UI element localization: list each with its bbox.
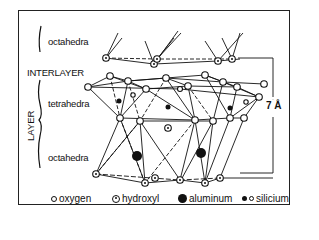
label-spacing-7a: 7 Å [265, 100, 283, 111]
silicium-open-symbol-icon [249, 196, 254, 201]
legend: oxygen hydroxyl aluminum silicium [0, 193, 290, 207]
legend-label: aluminum [189, 193, 232, 204]
label-interlayer: INTERLAYER [27, 67, 84, 78]
label-octahedra-interlayer: octahedra [48, 36, 88, 47]
label-octahedra-layer: octahedra [48, 152, 88, 163]
legend-item-oxygen: oxygen [51, 193, 91, 204]
label-layer: LAYER [25, 111, 36, 141]
hydroxyl-symbol-icon [112, 195, 120, 203]
label-tetrahedra: tetrahedra [48, 98, 89, 109]
legend-label: oxygen [59, 193, 91, 204]
legend-label: hydroxyl [122, 193, 159, 204]
aluminum-symbol-icon [178, 194, 187, 203]
legend-item-aluminum: aluminum [178, 193, 232, 204]
legend-item-silicium: silicium [242, 193, 289, 204]
oxygen-symbol-icon [51, 196, 57, 202]
legend-item-hydroxyl: hydroxyl [112, 193, 159, 204]
silicium-filled-symbol-icon [242, 196, 247, 201]
legend-label: silicium [256, 193, 289, 204]
